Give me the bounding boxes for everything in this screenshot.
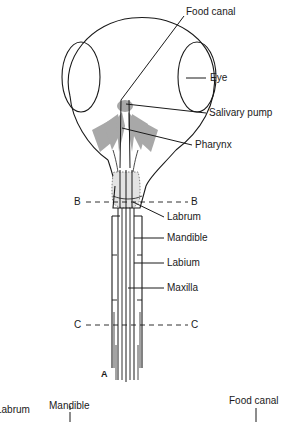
section-label-b-right: B — [191, 196, 198, 207]
panel-label-a: A — [101, 369, 108, 380]
pharyngeal-muscle-fans — [92, 100, 158, 152]
label-mandible: Mandible — [167, 232, 208, 243]
section-label-c-left: C — [74, 319, 81, 330]
label-labium: Labium — [167, 257, 200, 268]
bottom-label-mandible: Mandible — [49, 400, 90, 411]
label-maxilla: Maxilla — [167, 282, 198, 293]
label-labrum: Labrum — [167, 211, 201, 222]
mosquito-head-diagram — [0, 0, 286, 422]
label-food-canal: Food canal — [186, 6, 235, 17]
label-salivary-pump: Salivary pump — [209, 107, 272, 118]
funnel-right — [146, 150, 176, 186]
section-label-c-right: C — [191, 319, 198, 330]
eye-left — [62, 42, 100, 112]
stylet-bundle — [118, 208, 134, 382]
label-pharynx: Pharynx — [195, 139, 232, 150]
bottom-label-labrum: Labrum — [0, 404, 30, 415]
section-label-b-left: B — [74, 196, 81, 207]
label-eye: Eye — [210, 72, 227, 83]
bottom-label-food-canal: Food canal — [229, 395, 278, 406]
bottom-leader-ticks — [70, 406, 256, 422]
